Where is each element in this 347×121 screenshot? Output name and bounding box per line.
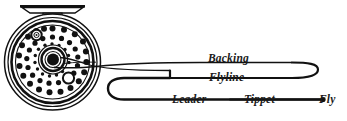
spool-arbor — [39, 45, 68, 74]
label-flyline: Flyline — [209, 71, 244, 83]
drag-knob — [31, 30, 41, 40]
label-fly: Fly — [319, 93, 336, 105]
label-backing: Backing — [208, 52, 249, 64]
label-leader: Leader — [172, 93, 206, 105]
fly-line-diagram: Backing Flyline Leader Tippet Fly — [0, 0, 347, 121]
spool-port-hole — [63, 72, 74, 83]
label-tippet: Tippet — [244, 93, 275, 105]
